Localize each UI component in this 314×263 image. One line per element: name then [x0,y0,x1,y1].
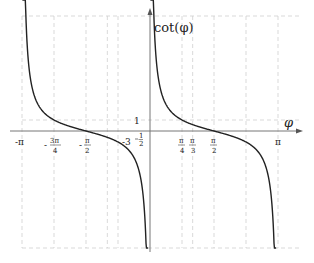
svg-text:π: π [190,137,195,145]
svg-text:4: 4 [53,147,58,155]
cot-curve-branch-1 [22,0,148,248]
exp-den: 2 [139,140,143,148]
x-tick-pi-4: π 4 [178,137,185,155]
y-axis-arrow-icon [148,8,153,15]
x-tick-pi: π [275,137,281,147]
svg-text:2: 2 [212,147,216,155]
svg-text:3: 3 [191,147,195,155]
svg-text:π: π [85,137,90,145]
y-tick-1: 1 [134,116,140,126]
x-tick-pi-2: π 2 [210,137,217,155]
svg-text:π: π [179,137,184,145]
cot-plot: cot(φ) φ 1 -3 1 2 -π - 3π 4 - π 2 π 4 π … [0,0,314,263]
svg-text:4: 4 [180,147,185,155]
y-axis-label: cot(φ) [154,20,194,35]
svg-text:-: - [44,140,47,150]
y-tick-neg-inv-sqrt3: -3 [122,137,131,147]
exp-num: 1 [139,132,143,140]
svg-text:π: π [211,137,216,145]
cot-curve-branch-2 [150,0,276,248]
x-tick-neg-3pi-4: - 3π 4 [44,137,61,155]
svg-text:2: 2 [85,147,89,155]
x-tick-neg-pi-2: - π 2 [79,137,91,155]
svg-text:-: - [79,140,82,150]
x-axis-arrow-icon [296,129,303,134]
x-tick-neg-pi: -π [15,137,24,147]
svg-text:3π: 3π [50,137,59,145]
grid [22,16,300,248]
x-axis-label: φ [284,115,294,130]
